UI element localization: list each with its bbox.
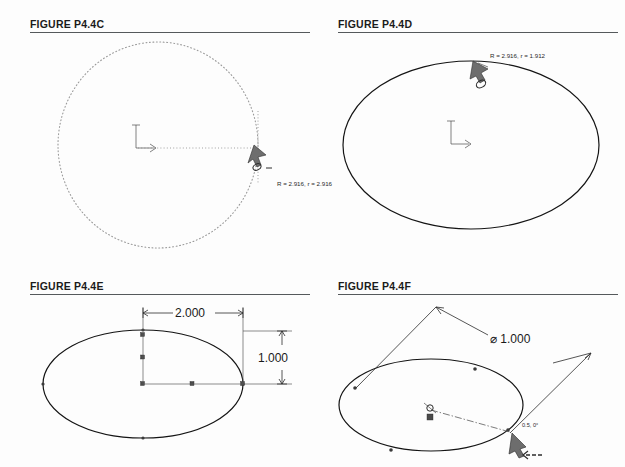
node-left[interactable] bbox=[41, 382, 44, 385]
ellipse-outline[interactable] bbox=[343, 61, 599, 229]
circle-outline[interactable] bbox=[58, 42, 258, 248]
drawing-canvas-p44e: 2.000 1.000 bbox=[30, 295, 320, 465]
dim-leader-lower-right bbox=[510, 353, 591, 433]
offset-annotation: 0.5, 0° bbox=[522, 422, 538, 428]
drawing-canvas-p44d: R = 2.916, r = 1.912 bbox=[338, 33, 618, 265]
figure-panel-p44d: FIGURE P4.4D R = 2.916, r = 1.912 bbox=[338, 18, 618, 265]
rotate-handle-icon[interactable] bbox=[248, 145, 272, 172]
dim-value-width: 2.000 bbox=[175, 306, 205, 320]
handle-mid-bottom[interactable] bbox=[190, 382, 194, 386]
figure-panel-p44f: FIGURE P4.4F ⌀ 1.000 bbox=[338, 280, 618, 467]
node-lower-left[interactable] bbox=[389, 448, 393, 452]
node-bottom[interactable] bbox=[141, 436, 144, 439]
move-arrow-icon[interactable] bbox=[509, 433, 544, 459]
figure-title-p44d: FIGURE P4.4D bbox=[338, 18, 618, 30]
node-upper-right[interactable] bbox=[473, 367, 477, 371]
figure-drawing-p44d: R = 2.916, r = 1.912 bbox=[338, 33, 618, 265]
figure-drawing-p44f: ⌀ 1.000 0.5, 0° bbox=[338, 295, 618, 467]
handle-right[interactable] bbox=[241, 382, 245, 386]
dim-value-diameter: ⌀ 1.000 bbox=[490, 332, 531, 346]
center-radius-line bbox=[431, 410, 510, 432]
center-point-marker[interactable] bbox=[424, 403, 436, 420]
dim-line-diam-left bbox=[436, 307, 488, 335]
drawing-canvas-p44c: R = 2.916, r = 2.916 bbox=[30, 33, 310, 265]
radius-annotation-p44c: R = 2.916, r = 2.916 bbox=[277, 180, 333, 187]
handle-mid-left[interactable] bbox=[141, 355, 145, 359]
figure-sheet: FIGURE P4.4C R = bbox=[0, 0, 625, 467]
construction-box bbox=[143, 333, 243, 384]
figure-drawing-p44c: R = 2.916, r = 2.916 bbox=[30, 33, 310, 265]
figure-title-p44e: FIGURE P4.4E bbox=[30, 280, 310, 292]
dim-value-height: 1.000 bbox=[258, 351, 288, 365]
radius-annotation-p44d: R = 2.916, r = 1.912 bbox=[490, 52, 546, 59]
drawing-canvas-p44f: ⌀ 1.000 0.5, 0° bbox=[338, 295, 623, 467]
figure-drawing-p44e: 2.000 1.000 bbox=[30, 295, 310, 465]
handle-top[interactable] bbox=[141, 333, 145, 337]
dim-leader-upper-left bbox=[356, 307, 436, 388]
handle-center[interactable] bbox=[141, 382, 145, 386]
figure-panel-p44c: FIGURE P4.4C R = bbox=[30, 18, 310, 265]
figure-panel-p44e: FIGURE P4.4E bbox=[30, 280, 310, 465]
figure-title-p44c: FIGURE P4.4C bbox=[30, 18, 310, 30]
rotate-handle-icon[interactable] bbox=[470, 61, 488, 90]
figure-title-p44f: FIGURE P4.4F bbox=[338, 280, 618, 292]
